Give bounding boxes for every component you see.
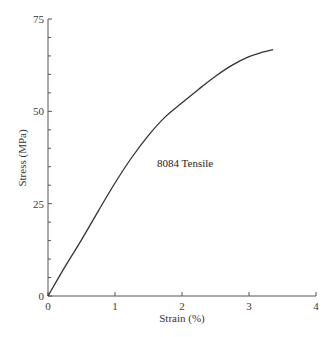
stress-strain-curve (48, 50, 273, 296)
x-axis-title: Strain (%) (159, 312, 205, 325)
y-axis-title: Stress (MPa) (16, 129, 29, 186)
x-tick-label: 0 (45, 300, 51, 312)
x-ticks: 01234 (45, 292, 319, 312)
y-ticks: 0255075 (33, 13, 52, 302)
x-tick-label: 4 (313, 300, 319, 312)
curve-annotation: 8084 Tensile (157, 157, 213, 169)
y-tick-label: 25 (33, 198, 45, 210)
x-tick-label: 3 (246, 300, 252, 312)
x-axis: 01234 Strain (%) (45, 292, 319, 325)
y-axis: 0255075 Stress (MPa) (16, 13, 52, 302)
y-tick-label: 50 (33, 105, 45, 117)
stress-strain-chart: 0255075 Stress (MPa) 01234 Strain (%) 80… (0, 0, 334, 337)
x-tick-label: 1 (112, 300, 118, 312)
x-tick-label: 2 (179, 300, 185, 312)
y-tick-label: 75 (33, 13, 45, 25)
y-tick-label: 0 (39, 290, 45, 302)
